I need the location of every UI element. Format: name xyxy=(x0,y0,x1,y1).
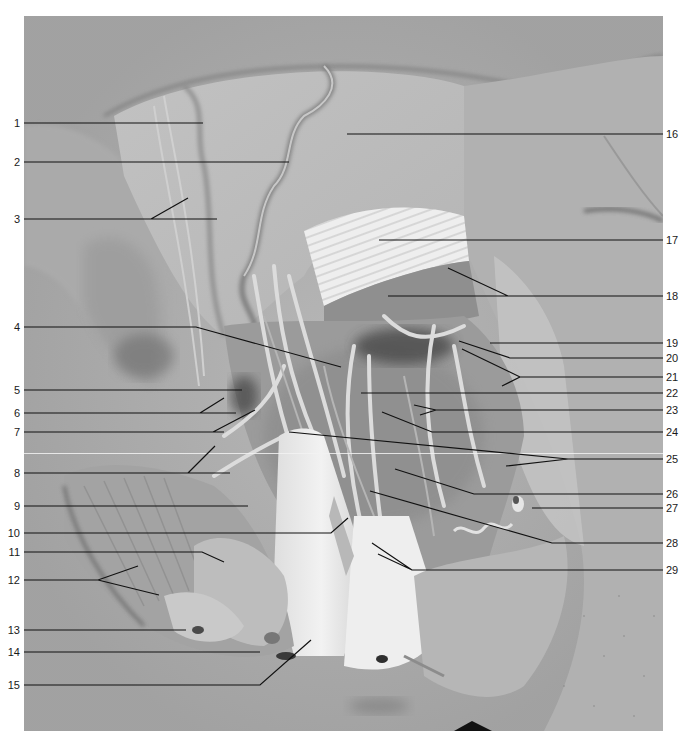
label-8: 8 xyxy=(4,467,20,479)
label-26: 26 xyxy=(666,488,683,500)
scan-artifact-line xyxy=(24,453,663,454)
label-5: 5 xyxy=(4,384,20,396)
label-29: 29 xyxy=(666,564,683,576)
label-24: 24 xyxy=(666,426,683,438)
label-21: 21 xyxy=(666,371,683,383)
label-18: 18 xyxy=(666,290,683,302)
label-6: 6 xyxy=(4,407,20,419)
label-15: 15 xyxy=(4,679,20,691)
label-9: 9 xyxy=(4,500,20,512)
label-25: 25 xyxy=(666,453,683,465)
label-1: 1 xyxy=(4,117,20,129)
label-28: 28 xyxy=(666,537,683,549)
label-22: 22 xyxy=(666,387,683,399)
label-27: 27 xyxy=(666,502,683,514)
label-11: 11 xyxy=(4,546,20,558)
label-2: 2 xyxy=(4,156,20,168)
label-14: 14 xyxy=(4,646,20,658)
label-13: 13 xyxy=(4,624,20,636)
label-17: 17 xyxy=(666,234,683,246)
dissection-photo xyxy=(24,16,663,731)
label-23: 23 xyxy=(666,404,683,416)
label-16: 16 xyxy=(666,128,683,140)
label-10: 10 xyxy=(4,527,20,539)
label-3: 3 xyxy=(4,213,20,225)
label-20: 20 xyxy=(666,352,683,364)
label-12: 12 xyxy=(4,574,20,586)
label-7: 7 xyxy=(4,426,20,438)
photo-rendering xyxy=(24,16,663,731)
label-19: 19 xyxy=(666,337,683,349)
label-4: 4 xyxy=(4,321,20,333)
